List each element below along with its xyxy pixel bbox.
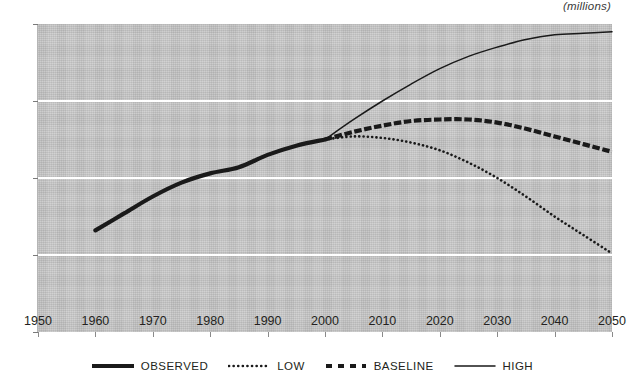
x-axis-label-2000: 2000 — [295, 314, 355, 328]
legend-item-observed-swatch — [92, 360, 134, 372]
plot-area — [38, 24, 612, 332]
chart-legend: OBSERVEDLOWBASELINEHIGH — [0, 360, 625, 372]
legend-item-high-swatch — [454, 360, 496, 372]
x-axis-label-1990: 1990 — [238, 314, 298, 328]
x-tick-1960 — [95, 332, 96, 337]
x-axis-label-1970: 1970 — [123, 314, 183, 328]
units-label: (millions) — [563, 0, 611, 12]
x-tick-2040 — [555, 332, 556, 337]
series-line-high — [325, 32, 612, 140]
series-line-low — [325, 136, 612, 253]
x-axis-label-1950: 1950 — [8, 314, 68, 328]
legend-item-low-swatch — [228, 360, 270, 372]
x-tick-1980 — [210, 332, 211, 337]
legend-item-baseline-label: BASELINE — [374, 360, 434, 372]
x-tick-2020 — [440, 332, 441, 337]
x-axis-label-2020: 2020 — [410, 314, 470, 328]
legend-item-baseline-swatch — [325, 360, 367, 372]
x-axis-label-2040: 2040 — [525, 314, 585, 328]
x-axis-label-2010: 2010 — [352, 314, 412, 328]
legend-item-observed-label: OBSERVED — [141, 360, 208, 372]
x-tick-1970 — [153, 332, 154, 337]
x-axis-label-1980: 1980 — [180, 314, 240, 328]
x-axis-label-2050: 2050 — [582, 314, 631, 328]
series-line-observed — [95, 140, 325, 231]
x-tick-2010 — [382, 332, 383, 337]
x-tick-2050 — [612, 332, 613, 337]
legend-item-low[interactable]: LOW — [228, 360, 305, 372]
legend-item-baseline[interactable]: BASELINE — [325, 360, 434, 372]
x-tick-2000 — [325, 332, 326, 337]
x-tick-1950 — [38, 332, 39, 337]
x-axis-label-2030: 2030 — [467, 314, 527, 328]
series-lines — [38, 24, 612, 332]
x-axis-label-1960: 1960 — [65, 314, 125, 328]
x-tick-2030 — [497, 332, 498, 337]
legend-item-low-label: LOW — [277, 360, 305, 372]
legend-item-high-label: HIGH — [503, 360, 534, 372]
x-tick-1990 — [268, 332, 269, 337]
legend-item-observed[interactable]: OBSERVED — [92, 360, 208, 372]
legend-item-high[interactable]: HIGH — [454, 360, 534, 372]
